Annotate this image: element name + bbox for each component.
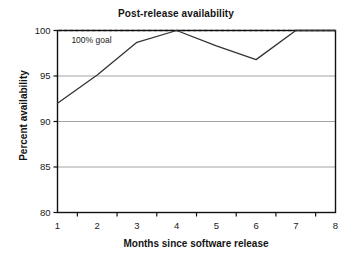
grid-lines	[58, 76, 336, 167]
chart-annotations: 100% goal	[71, 35, 111, 45]
x-tick-label-2: 2	[95, 220, 100, 231]
x-tick-label-1: 1	[55, 220, 60, 231]
y-tick-label-85: 85	[40, 161, 51, 172]
y-tick-label-100: 100	[35, 25, 51, 36]
x-tick-label-3: 3	[134, 220, 139, 231]
plot-area: 80859095100 12345678 100% goal	[0, 0, 352, 261]
x-tick-label-7: 7	[293, 220, 298, 231]
chart-container: Post-release availability Percent availa…	[0, 0, 352, 261]
y-tick-label-95: 95	[40, 70, 51, 81]
y-tick-label-80: 80	[40, 207, 51, 218]
x-tick-label-5: 5	[214, 220, 219, 231]
annotation-goal-label: 100% goal	[71, 35, 111, 45]
x-tick-label-4: 4	[174, 220, 179, 231]
y-axis-ticks: 80859095100	[35, 25, 58, 218]
x-tick-label-6: 6	[253, 220, 258, 231]
y-tick-label-90: 90	[40, 116, 51, 127]
x-axis-ticks: 12345678	[55, 213, 338, 231]
x-tick-label-8: 8	[333, 220, 338, 231]
